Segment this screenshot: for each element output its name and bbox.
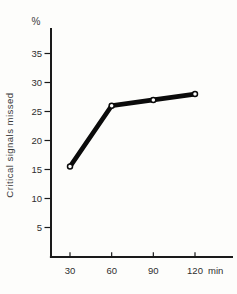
y-tick-label: 35 <box>31 48 42 59</box>
y-tick-label: 25 <box>31 106 42 117</box>
y-axis-unit-label: % <box>32 16 41 27</box>
chart-background <box>0 0 237 294</box>
data-point <box>151 97 156 102</box>
data-point <box>109 103 114 108</box>
y-tick-label: 30 <box>31 77 42 88</box>
line-chart: 5101520253035 306090120min % Critical si… <box>0 0 237 294</box>
y-axis-title: Critical signals missed <box>4 92 15 197</box>
data-point <box>68 164 73 169</box>
y-tick-label: 10 <box>31 193 42 204</box>
x-tick-label: 60 <box>106 265 117 276</box>
x-axis-unit-label: min <box>208 265 223 276</box>
y-tick-label: 15 <box>31 164 42 175</box>
x-tick-label: 90 <box>148 265 159 276</box>
y-tick-label: 5 <box>37 222 42 233</box>
y-tick-label: 20 <box>31 135 42 146</box>
x-tick-label: 30 <box>65 265 76 276</box>
data-point <box>193 92 198 97</box>
x-tick-label: 120 <box>187 265 203 276</box>
vigilance-chart-figure: 5101520253035 306090120min % Critical si… <box>0 0 237 294</box>
